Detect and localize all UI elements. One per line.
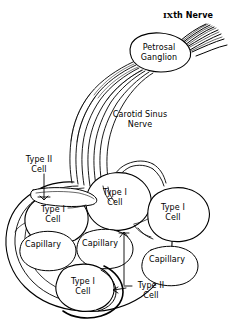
label-type-i-cell-right: Type I Cell — [152, 203, 194, 222]
capillary-right-outline — [142, 246, 198, 285]
nerve-bundle-shading — [71, 64, 143, 142]
label-type-ii-cell-bottom: Type II Cell — [127, 281, 175, 300]
leader-line-type-ii-bottom-arrow — [113, 287, 126, 293]
label-petrosal-ganglion: Petrosal Ganglion — [132, 43, 186, 62]
label-type-ii-cell-left: Type II Cell — [17, 155, 61, 174]
capillary-center-outline — [77, 229, 133, 268]
capillary-left-outline — [20, 231, 76, 270]
label-ixth-nerve-numeral: IX — [163, 10, 173, 20]
label-capillary-right: Capillary — [143, 255, 191, 265]
label-type-i-cell-center-top: Type I Cell — [94, 188, 136, 207]
label-type-i-cell-bottom: Type I Cell — [62, 277, 104, 296]
label-capillary-left: Capillary — [19, 240, 67, 250]
label-type-i-cell-left: Type I Cell — [32, 205, 74, 224]
label-ixth-nerve-suffix: th Nerve — [173, 11, 213, 20]
label-ixth-nerve: IXth Nerve — [163, 11, 213, 21]
label-carotid-sinus-nerve: Carotid Sinus Nerve — [106, 110, 174, 129]
label-capillary-center: Capillary — [76, 239, 124, 249]
carotid-body-diagram: IXth Nerve Petrosal Ganglion Carotid Sin… — [0, 0, 228, 331]
leader-line-type-ii-left — [38, 174, 50, 200]
